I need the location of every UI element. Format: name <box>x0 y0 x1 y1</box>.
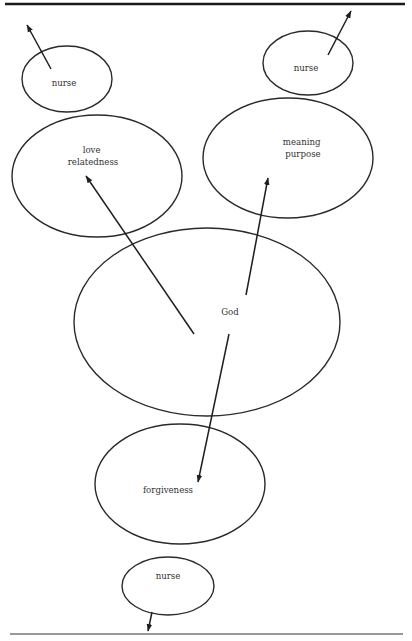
node-god: God <box>74 228 340 416</box>
node-love-relatedness: love relatedness <box>12 115 182 237</box>
arrow-god-to-meaning <box>246 178 268 295</box>
god-label-line: God <box>221 307 239 317</box>
forgiveness-label-line: forgiveness <box>143 485 193 495</box>
nurse-bottom-label-line: nurse <box>156 571 181 581</box>
concept-diagram: nurse nurse love relatedness meaning pur… <box>0 0 412 641</box>
love-label-line: love <box>83 145 101 155</box>
node-forgiveness: forgiveness <box>95 424 265 544</box>
node-nurse-top-right: nurse <box>263 31 353 95</box>
arrow-god-to-love <box>86 176 194 334</box>
node-meaning-purpose: meaning purpose <box>203 98 373 218</box>
meaning-label-line: meaning <box>283 137 321 147</box>
arrow-god-to-forgiveness <box>198 334 229 482</box>
love-relatedness-ellipse <box>12 115 182 237</box>
nodes-layer: nurse nurse love relatedness meaning pur… <box>12 31 373 615</box>
nurse-bottom-ellipse <box>122 557 214 615</box>
node-nurse-bottom: nurse <box>122 557 214 615</box>
forgiveness-label: forgiveness <box>143 485 193 495</box>
nurse-top-right-label-line: nurse <box>294 63 319 73</box>
arrow-nurse-bottom-out <box>148 612 152 631</box>
arrows-layer <box>27 11 351 631</box>
god-label: God <box>221 307 239 317</box>
nurse-top-left-label: nurse <box>52 78 77 88</box>
meaning-purpose-label: meaning purpose <box>283 137 323 159</box>
nurse-top-right-label: nurse <box>294 63 319 73</box>
arrow-nurse-top-left-out <box>27 25 51 69</box>
node-nurse-top-left: nurse <box>22 46 112 112</box>
purpose-label-line: purpose <box>285 149 320 159</box>
god-ellipse <box>74 228 340 416</box>
love-relatedness-label: love relatedness <box>68 145 119 167</box>
nurse-bottom-label: nurse <box>156 571 181 581</box>
forgiveness-ellipse <box>95 424 265 544</box>
nurse-top-left-label-line: nurse <box>52 78 77 88</box>
relatedness-label-line: relatedness <box>68 157 119 167</box>
